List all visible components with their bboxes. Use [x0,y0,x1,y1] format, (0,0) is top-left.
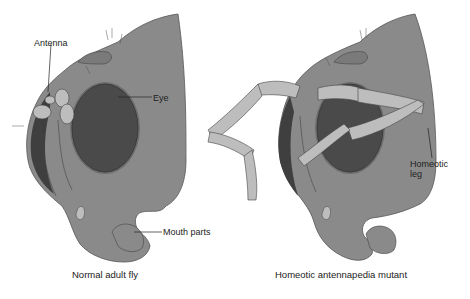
fly-comparison-figure: Antenna Eye Mouth parts Homeotic leg Nor… [0,0,470,299]
homeotic-leg-label-line2: leg [410,170,448,180]
normal-fly-caption: Normal adult fly [72,270,138,280]
antenna-label: Antenna [34,39,68,48]
fly-illustration [0,0,470,299]
homeotic-leg-label: Homeotic leg [410,160,448,180]
normal-fly-head [12,14,186,262]
mutant-fly-head [208,14,436,260]
mutant-fly-caption: Homeotic antennapedia mutant [275,270,407,280]
eye-label: Eye [153,94,169,103]
mouth-parts-label: Mouth parts [163,228,211,237]
